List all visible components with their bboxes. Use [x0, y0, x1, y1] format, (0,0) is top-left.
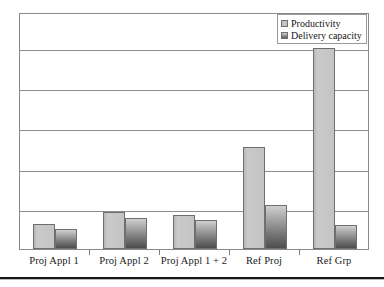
bar-group	[33, 14, 77, 249]
legend-label-delivery-capacity: Delivery capacity	[291, 30, 362, 41]
bar-chart-figure: Proj Appl 1Proj Appl 2Proj Appl 1 + 2Ref…	[0, 0, 384, 287]
category-label: Proj Appl 2	[89, 255, 159, 266]
bar-productivity	[243, 147, 265, 249]
bar-group	[243, 14, 287, 249]
bar-delivery-capacity	[195, 220, 217, 249]
bar-productivity	[33, 224, 55, 249]
bar-group	[313, 14, 357, 249]
category-label: Proj Appl 1	[19, 255, 89, 266]
category-label: Ref Proj	[229, 255, 299, 266]
chart-legend: Productivity Delivery capacity	[277, 14, 367, 44]
category-label: Proj Appl 1 + 2	[159, 255, 229, 266]
bar-delivery-capacity	[125, 218, 147, 249]
legend-item-delivery-capacity: Delivery capacity	[281, 29, 362, 41]
bottom-divider-shadow	[0, 279, 384, 280]
bar-delivery-capacity	[265, 205, 287, 249]
legend-label-productivity: Productivity	[291, 18, 340, 29]
legend-swatch-productivity-icon	[281, 20, 288, 27]
bar-group	[103, 14, 147, 249]
plot-area	[19, 13, 369, 250]
legend-swatch-delivery-capacity-icon	[281, 32, 288, 39]
bar-productivity	[103, 212, 125, 249]
bar-productivity	[313, 48, 335, 249]
bar-productivity	[173, 215, 195, 249]
bar-group	[173, 14, 217, 249]
bars-layer	[20, 14, 368, 249]
bar-delivery-capacity	[55, 229, 77, 249]
legend-item-productivity: Productivity	[281, 17, 362, 29]
bar-delivery-capacity	[335, 225, 357, 249]
category-label: Ref Grp	[299, 255, 369, 266]
